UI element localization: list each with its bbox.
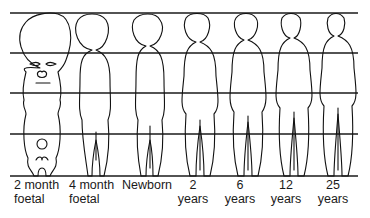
label-line2: years xyxy=(271,192,302,206)
label-line1: 6 xyxy=(225,178,256,192)
label-line2: years xyxy=(318,192,349,206)
figure-6-years xyxy=(230,14,266,177)
figure-newborn xyxy=(133,14,165,176)
label-line1: Newborn xyxy=(122,178,172,192)
label-newborn: Newborn xyxy=(122,178,172,192)
label-6-years: 6 years xyxy=(225,178,256,206)
figure-25-years xyxy=(320,14,356,177)
label-12-years: 12 years xyxy=(271,178,302,206)
figure-4-month-foetal xyxy=(76,14,111,176)
label-line2: foetal xyxy=(14,192,59,206)
label-line1: 12 xyxy=(271,178,302,192)
figure-2-years xyxy=(182,14,218,177)
label-25-years: 25 years xyxy=(318,178,349,206)
stage-labels: 2 month foetal 4 month foetal Newborn 2 … xyxy=(0,178,370,218)
label-line1: 25 xyxy=(318,178,349,192)
label-line2: foetal xyxy=(69,192,114,206)
label-2-month-foetal: 2 month foetal xyxy=(14,178,59,206)
label-line2: years xyxy=(225,192,256,206)
label-line2: years xyxy=(178,192,209,206)
label-4-month-foetal: 4 month foetal xyxy=(69,178,114,206)
proportion-grid-lines xyxy=(10,13,358,176)
label-line1: 2 xyxy=(178,178,209,192)
figure-12-years xyxy=(276,14,312,177)
label-line1: 4 month xyxy=(69,178,114,192)
figure-2-month-foetal xyxy=(20,13,71,176)
label-2-years: 2 years xyxy=(178,178,209,206)
label-line1: 2 month xyxy=(14,178,59,192)
